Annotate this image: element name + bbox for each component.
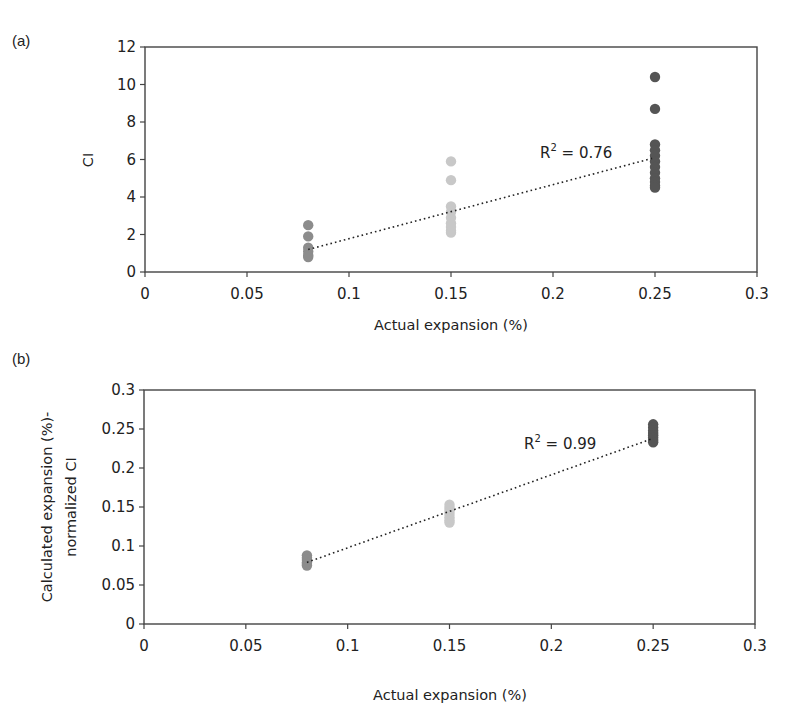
y-tick-label: 6: [126, 151, 136, 169]
y-tick-label: 0.05: [102, 576, 135, 594]
trendline: [307, 438, 653, 562]
data-point: [446, 156, 456, 166]
y-tick-label: 0.2: [111, 459, 135, 477]
panel-label-b: (b): [12, 350, 30, 367]
x-tick-label: 0.3: [743, 637, 767, 655]
data-point: [303, 220, 313, 230]
y-tick-label: 0.25: [102, 420, 135, 438]
chart-b-plot: 00.050.10.150.20.250.300.050.10.150.20.2…: [102, 381, 767, 655]
x-tick-label: 0.2: [541, 285, 565, 303]
chart-b-y-axis-title-line1: Calculated expansion (%)-: [39, 412, 55, 603]
x-tick-label: 0.2: [539, 637, 563, 655]
y-tick-label: 0.1: [111, 537, 135, 555]
y-tick-label: 2: [126, 226, 136, 244]
x-tick-label: 0.05: [230, 285, 263, 303]
data-point: [648, 437, 658, 447]
y-tick-label: 8: [126, 113, 136, 131]
chart-a-y-axis-title: CI: [80, 153, 96, 167]
x-tick-label: 0.05: [229, 637, 262, 655]
x-tick-label: 0.3: [745, 285, 769, 303]
chart-b-y-axis-title-line2: normalized CI: [63, 457, 79, 557]
y-tick-label: 0.3: [111, 381, 135, 399]
y-tick-label: 0: [125, 615, 135, 633]
y-tick-label: 10: [117, 76, 136, 94]
y-tick-label: 0.15: [102, 498, 135, 516]
x-tick-label: 0.15: [434, 285, 467, 303]
x-tick-label: 0: [139, 637, 149, 655]
data-point: [650, 72, 660, 82]
y-tick-label: 0: [126, 263, 136, 281]
y-tick-label: 4: [126, 188, 136, 206]
data-point: [650, 182, 660, 192]
x-tick-label: 0.1: [337, 285, 361, 303]
data-point: [650, 104, 660, 114]
chart-a-r2-annotation: R2 = 0.76: [540, 142, 612, 162]
chart-b-x-axis-title: Actual expansion (%): [373, 687, 527, 703]
panel-label-a: (a): [12, 32, 30, 49]
data-point: [444, 517, 454, 527]
data-point: [303, 252, 313, 262]
chart-b-r2-annotation: R2 = 0.99: [524, 433, 596, 453]
data-point: [446, 227, 456, 237]
x-tick-label: 0.25: [638, 285, 671, 303]
chart-a-plot: 02468101200.050.10.150.20.250.3: [117, 38, 769, 303]
trendline: [308, 158, 655, 250]
y-tick-label: 12: [117, 38, 136, 56]
x-tick-label: 0.25: [636, 637, 669, 655]
chart-a-x-axis-title: Actual expansion (%): [374, 317, 528, 333]
data-point: [446, 175, 456, 185]
x-tick-label: 0.15: [433, 637, 466, 655]
x-tick-label: 0.1: [336, 637, 360, 655]
data-point: [303, 231, 313, 241]
figure: (a) 02468101200.050.10.150.20.250.3 CI A…: [0, 0, 803, 724]
x-tick-label: 0: [140, 285, 150, 303]
